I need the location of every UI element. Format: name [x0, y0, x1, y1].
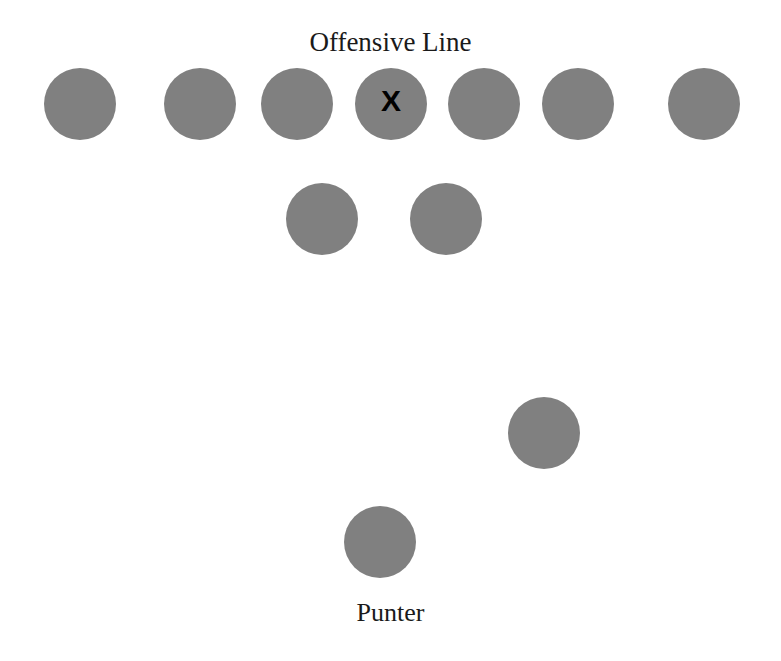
player-personal-protector: [508, 397, 580, 469]
player-center: X: [355, 68, 427, 140]
center-x-marker: X: [381, 86, 401, 116]
player-right-wing: [668, 68, 740, 140]
punter-label: Punter: [0, 598, 781, 628]
player-left-upback: [286, 183, 358, 255]
player-right-upback: [410, 183, 482, 255]
player-left-guard: [261, 68, 333, 140]
player-right-guard: [448, 68, 520, 140]
punt-formation-diagram: Offensive Line X Punter: [0, 0, 781, 661]
player-punter: [344, 506, 416, 578]
offensive-line-title: Offensive Line: [0, 27, 781, 58]
player-left-tackle: [164, 68, 236, 140]
player-right-tackle: [542, 68, 614, 140]
player-left-wing: [44, 68, 116, 140]
